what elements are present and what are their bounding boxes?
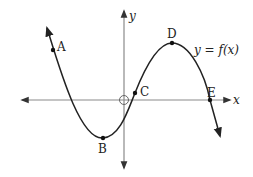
x-axis-label: x [233,93,240,107]
function-graph: A B C D E y x y = f(x) [0,0,253,177]
point-a [51,48,55,52]
label-c: C [140,85,149,99]
point-b [101,136,105,140]
label-a: A [56,40,66,54]
point-c [133,91,137,95]
curve-label: y = f(x) [193,43,239,57]
label-e: E [207,86,216,100]
label-d: D [167,27,177,41]
point-d [170,41,174,45]
y-axis-label: y [128,9,136,23]
label-b: B [98,142,107,156]
